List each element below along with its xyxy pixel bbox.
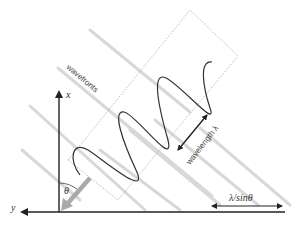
theta-label: θ	[64, 185, 69, 196]
lambda-over-sin-label: λ/sinθ	[228, 192, 253, 203]
dotted-box	[68, 10, 238, 200]
x-axis-label: x	[65, 89, 71, 100]
y-axis-label: y	[10, 202, 16, 213]
wave-diagram: wavelength λ wavefronts x y θ λ/sinθ	[0, 0, 296, 225]
